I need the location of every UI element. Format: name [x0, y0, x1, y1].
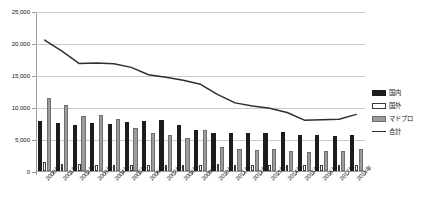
legend-swatch-kokugai: [372, 103, 386, 109]
y-axis-tick-label: 5,000: [0, 136, 30, 143]
y-axis-tick: [32, 140, 36, 141]
y-axis-tick-label: 0: [0, 168, 30, 175]
legend-item-goukei[interactable]: 合計: [372, 125, 442, 138]
legend-label: マドプロ: [389, 114, 413, 123]
chart-container: 05,00010,00015,00020,00025,000 2000年2001…: [0, 0, 442, 213]
plot-area: [36, 12, 365, 172]
legend-item-kokunai[interactable]: 国内: [372, 86, 442, 99]
legend-label: 国内: [389, 88, 401, 97]
y-axis-tick: [32, 108, 36, 109]
y-axis-labels: 05,00010,00015,00020,00025,000: [0, 12, 33, 172]
y-axis-tick: [32, 12, 36, 13]
legend-swatch-kokunai: [372, 90, 386, 96]
legend-swatch-goukei: [372, 131, 386, 132]
y-axis-tick-label: 10,000: [0, 104, 30, 111]
y-axis-tick: [32, 76, 36, 77]
legend-label: 合計: [389, 127, 401, 136]
legend-item-kokugai[interactable]: 国外: [372, 99, 442, 112]
y-axis-tick-label: 25,000: [0, 8, 30, 15]
y-axis-tick-label: 20,000: [0, 40, 30, 47]
x-axis-labels: 2000年2001年2002年2003年2004年2005年2006年2007年…: [36, 174, 365, 213]
y-axis-tick: [32, 44, 36, 45]
line-goukei: [45, 40, 357, 120]
legend-swatch-madopro: [372, 116, 386, 122]
legend-label: 国外: [389, 101, 401, 110]
total-line-series: [36, 12, 365, 172]
legend-item-madopro[interactable]: マドプロ: [372, 112, 442, 125]
legend: 国内国外マドプロ合計: [372, 86, 442, 138]
y-axis-tick-label: 15,000: [0, 72, 30, 79]
